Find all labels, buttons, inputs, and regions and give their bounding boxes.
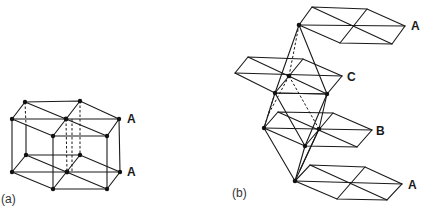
caption-b: (b) [232,186,247,200]
label-a-bottom-layer: A [127,165,136,179]
panel-b-structure [235,7,405,200]
panel-a-structure [10,99,122,191]
label-b-top-a-layer: A [411,19,420,33]
label-a-top-layer: A [127,112,136,126]
panel-b-bottom-a-layer [295,165,402,200]
label-b-b-layer: B [376,124,385,138]
crystal-stacking-diagram: A A (a) [0,0,425,210]
label-b-c-layer: C [347,70,356,84]
panel-a-vertical-edges [12,101,120,189]
label-b-bottom-a-layer: A [408,178,417,192]
panel-b-interlayer-bonds [264,25,327,181]
caption-a: (a) [1,192,16,206]
panel-b-top-a-layer [299,7,405,44]
